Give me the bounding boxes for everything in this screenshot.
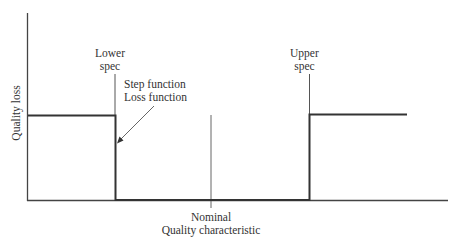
upper-spec-label: Upper spec [290,47,319,73]
lower-spec-label: Lower spec [95,47,125,73]
nominal-label: Nominal [161,211,261,224]
upper-spec-label-line1: Upper [290,47,319,60]
step-loss-function-line [28,115,407,201]
annotation-line1: Step function [124,78,187,91]
lower-spec-label-line1: Lower [95,47,125,60]
upper-spec-label-line2: spec [290,60,319,73]
step-loss-diagram [0,0,459,246]
annotation-line2: Loss function [124,91,187,104]
x-axis-label: Nominal Quality characteristic [161,211,261,237]
quality-characteristic-label: Quality characteristic [161,224,261,237]
y-axis-label: Quality loss [10,77,22,149]
step-function-annotation: Step function Loss function [124,78,187,104]
annotation-arrow-shaft [119,106,154,141]
lower-spec-label-line2: spec [95,60,125,73]
